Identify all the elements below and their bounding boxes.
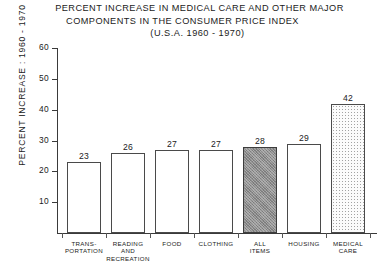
- x-axis-category-label-line: ALL: [238, 240, 282, 247]
- bar[interactable]: 23: [67, 162, 101, 233]
- plot-area: 102030405060 23262727282942 TRANS-PORTAT…: [57, 48, 377, 233]
- x-axis-tick: [62, 233, 63, 238]
- x-axis-category-label-line: AND: [106, 247, 150, 254]
- y-axis-tick: 10: [52, 202, 57, 203]
- x-axis-category-label-line: CLOTHING: [194, 240, 238, 247]
- chart-title-line-1: PERCENT INCREASE IN MEDICAL CARE AND OTH…: [0, 2, 391, 15]
- x-axis-tick: [150, 233, 151, 238]
- y-axis-tick-label: 20: [39, 165, 49, 175]
- x-axis-category-label: MEDICALCARE: [326, 240, 370, 255]
- x-axis-category-label: ALLITEMS: [238, 240, 282, 255]
- bar[interactable]: 27: [155, 150, 189, 233]
- x-axis-category-label: TRANS-PORTATION: [62, 240, 106, 255]
- bar[interactable]: 42: [331, 104, 365, 234]
- x-axis-tick: [194, 233, 195, 238]
- y-axis-tick-label: 60: [39, 42, 49, 52]
- bar-value-label: 29: [299, 133, 309, 143]
- bar-value-label: 26: [123, 142, 133, 152]
- bar[interactable]: 28: [243, 147, 277, 233]
- bar[interactable]: 27: [199, 150, 233, 233]
- bar-value-label: 28: [255, 136, 265, 146]
- x-axis-category-label-line: MEDICAL: [326, 240, 370, 247]
- y-axis-tick-label: 50: [39, 73, 49, 83]
- x-axis-tick: [370, 233, 371, 238]
- y-axis-line: [57, 48, 58, 233]
- x-axis-category-label: READINGANDRECREATION: [106, 240, 150, 262]
- chart-title: PERCENT INCREASE IN MEDICAL CARE AND OTH…: [0, 2, 391, 40]
- y-axis-tick-label: 40: [39, 104, 49, 114]
- bar-value-label: 23: [79, 151, 89, 161]
- y-axis-tick: 60: [52, 48, 57, 49]
- y-axis-tick-label: 30: [39, 135, 49, 145]
- x-axis-category-label: HOUSING: [282, 240, 326, 247]
- y-axis-tick: 20: [52, 171, 57, 172]
- chart-title-line-2: COMPONENTS IN THE CONSUMER PRICE INDEX: [0, 15, 391, 28]
- bar[interactable]: 26: [111, 153, 145, 233]
- bar[interactable]: 29: [287, 144, 321, 233]
- x-axis-category-label-line: TRANS-: [62, 240, 106, 247]
- x-axis-category-label: CLOTHING: [194, 240, 238, 247]
- y-axis-tick: 40: [52, 110, 57, 111]
- bar-value-label: 27: [211, 139, 221, 149]
- x-axis-line: [57, 233, 377, 234]
- x-axis-category-label: FOOD: [150, 240, 194, 247]
- chart-title-subtitle: (U.S.A. 1960 - 1970): [0, 27, 391, 40]
- x-axis-category-label-line: RECREATION: [106, 255, 150, 262]
- x-axis-category-label-line: FOOD: [150, 240, 194, 247]
- x-axis-tick: [282, 233, 283, 238]
- x-axis-category-label-line: PORTATION: [62, 247, 106, 254]
- x-axis-category-label-line: ITEMS: [238, 247, 282, 254]
- x-axis-category-label-line: CARE: [326, 247, 370, 254]
- x-axis-tick: [106, 233, 107, 238]
- x-axis-tick: [326, 233, 327, 238]
- bar-value-label: 27: [167, 139, 177, 149]
- x-axis-tick: [238, 233, 239, 238]
- x-axis-category-label-line: READING: [106, 240, 150, 247]
- x-axis-category-label-line: HOUSING: [282, 240, 326, 247]
- y-axis-tick: 30: [52, 141, 57, 142]
- y-axis-title: PERCENT INCREASE : 1960 - 1970: [17, 0, 27, 175]
- bar-value-label: 42: [343, 93, 353, 103]
- y-axis-tick-label: 10: [39, 196, 49, 206]
- y-axis-tick: 50: [52, 79, 57, 80]
